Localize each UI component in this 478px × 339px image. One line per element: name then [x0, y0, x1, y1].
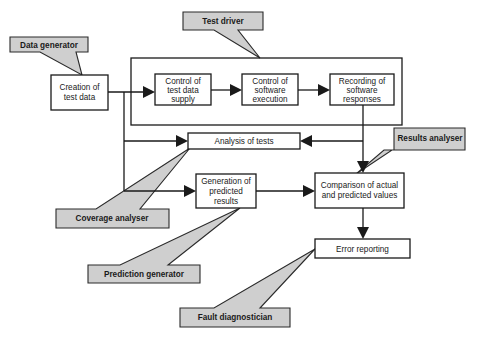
arrow-to-supply-icon [143, 86, 155, 98]
process-creation-of-test-data: Creation of test data [51, 75, 108, 110]
svg-text:software: software [347, 86, 378, 95]
arrow-to-analysis-left-icon [176, 135, 188, 147]
callout-test-driver: Test driver [183, 12, 263, 58]
svg-text:Comparison of actual: Comparison of actual [321, 181, 399, 190]
svg-text:results: results [214, 197, 238, 206]
svg-text:Error reporting: Error reporting [336, 245, 389, 254]
svg-text:Generation of: Generation of [201, 177, 251, 186]
svg-text:Control of: Control of [165, 77, 201, 86]
arrow-to-error-icon [357, 227, 369, 239]
svg-text:execution: execution [252, 95, 287, 104]
callout-coverage-analyser-label: Coverage analyser [76, 214, 150, 223]
callout-data-generator-label: Data generator [20, 41, 79, 50]
callout-fault-diagnostician: Fault diagnostician [180, 249, 315, 327]
process-comparison-actual-predicted: Comparison of actual and predicted value… [315, 173, 404, 208]
process-analysis-of-tests: Analysis of tests [188, 133, 300, 149]
process-error-reporting: Error reporting [315, 239, 410, 258]
svg-text:software: software [255, 86, 286, 95]
callout-test-driver-label: Test driver [202, 17, 244, 26]
process-control-test-data-supply: Control of test data supply [155, 74, 211, 105]
process-recording-software-responses: Recording of software responses [330, 74, 394, 105]
callout-results-analyser-label: Results analyser [397, 134, 463, 143]
svg-text:predicted: predicted [209, 187, 243, 196]
svg-text:Creation of: Creation of [59, 83, 100, 92]
svg-text:and predicted values: and predicted values [322, 191, 398, 200]
arrow-to-recording-icon [318, 84, 330, 96]
callout-coverage-analyser: Coverage analyser [56, 148, 190, 228]
callout-data-generator: Data generator [10, 37, 88, 75]
svg-text:responses: responses [343, 95, 381, 104]
svg-text:test data: test data [167, 86, 199, 95]
process-generation-of-predicted-results: Generation of predicted results [196, 174, 256, 208]
svg-text:supply: supply [171, 95, 196, 104]
callout-fault-diagnostician-label: Fault diagnostician [198, 313, 273, 322]
test-system-diagram: Test driver Data generator Results analy… [0, 0, 478, 339]
svg-text:Analysis of tests: Analysis of tests [214, 137, 273, 146]
svg-text:Control of: Control of [252, 77, 288, 86]
callout-prediction-generator-label: Prediction generator [104, 270, 185, 279]
arrow-to-analysis-right-icon [300, 135, 312, 147]
svg-text:test data: test data [64, 93, 96, 102]
arrow-to-generation-icon [184, 185, 196, 197]
svg-text:Recording of: Recording of [339, 77, 386, 86]
arrow-to-execution-icon [230, 84, 242, 96]
process-control-software-execution: Control of software execution [242, 74, 298, 105]
arrow-to-comparison-left-icon [303, 185, 315, 197]
callout-results-analyser: Results analyser [356, 128, 465, 174]
